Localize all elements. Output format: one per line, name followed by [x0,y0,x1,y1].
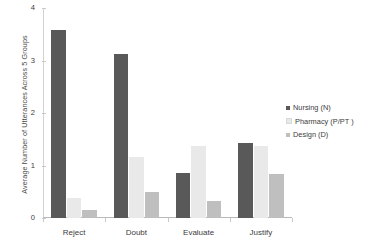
y-tick: 0 [27,218,41,219]
bar[interactable] [269,174,284,218]
x-axis-label: Doubt [105,228,167,237]
bar[interactable] [176,173,191,218]
y-tick-label: 1 [31,161,35,170]
x-tick-mark [105,218,106,222]
x-tick-mark [43,218,44,222]
y-axis-title: Average Number of Utterances Across 5 Gr… [20,15,29,215]
legend-swatch-icon [286,118,292,124]
bar-group: Doubt [105,8,167,218]
bar[interactable] [254,146,269,218]
bar[interactable] [51,30,66,218]
bar-group: Evaluate [168,8,230,218]
legend-swatch-icon [286,106,290,110]
legend: Nursing (N) Pharmacy (P/PT ) Design (D) [286,101,354,142]
y-tick-label: 0 [31,213,35,222]
x-tick-mark [168,218,169,222]
legend-label: Nursing (N) [293,101,331,115]
y-tick-label: 3 [31,56,35,65]
bar[interactable] [207,201,222,218]
legend-swatch-icon [286,133,290,137]
bar[interactable] [67,198,82,218]
y-tick: 1 [27,166,41,167]
legend-label: Pharmacy (P/PT ) [295,115,354,129]
y-tick: 4 [27,8,41,9]
bar-chart: Average Number of Utterances Across 5 Gr… [0,0,377,248]
y-tick-label: 4 [31,3,35,12]
x-axis-label: Evaluate [168,228,230,237]
x-tick-mark [292,218,293,222]
y-tick-label: 2 [31,108,35,117]
legend-label: Design (D) [293,128,328,142]
x-axis-label: Justify [230,228,292,237]
x-axis-label: Reject [43,228,105,237]
legend-item[interactable]: Pharmacy (P/PT ) [286,115,354,129]
bar[interactable] [82,210,97,218]
y-tick: 2 [27,113,41,114]
legend-item[interactable]: Nursing (N) [286,101,354,115]
bar[interactable] [114,54,129,218]
bar[interactable] [238,143,253,218]
plot-area: 01234 RejectDoubtEvaluateJustify [43,8,292,218]
bar-group: Reject [43,8,105,218]
x-tick-mark [230,218,231,222]
bar[interactable] [191,146,206,218]
legend-item[interactable]: Design (D) [286,128,354,142]
bar[interactable] [145,192,160,218]
y-tick: 3 [27,61,41,62]
bar-group: Justify [230,8,292,218]
bar[interactable] [129,157,144,218]
